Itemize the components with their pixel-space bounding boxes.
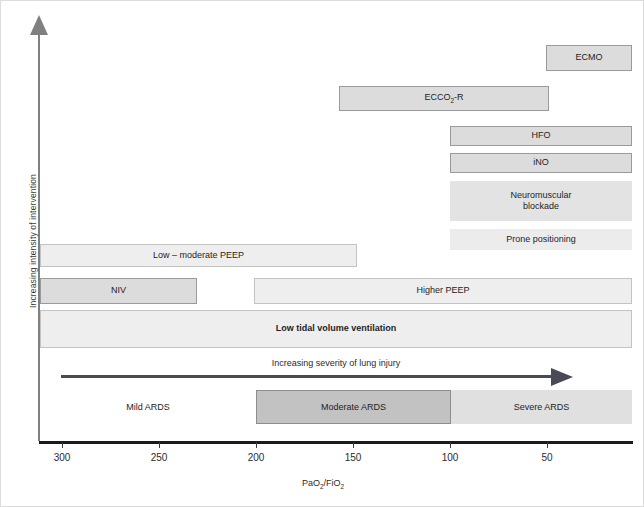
severity-arrowhead-icon: [551, 368, 573, 386]
x-axis-tick-label: 50: [527, 452, 567, 463]
intervention-bar: Low tidal volume ventilation: [40, 310, 632, 348]
x-axis-tick: [353, 442, 354, 448]
ards-severity-band-label: Mild ARDS: [126, 402, 170, 412]
x-axis-tick: [547, 442, 548, 448]
ards-severity-band: Moderate ARDS: [256, 390, 451, 424]
ards-severity-band: Mild ARDS: [40, 390, 256, 424]
x-axis-tick-label: 150: [333, 452, 373, 463]
axis-title-text: PaO: [302, 478, 320, 488]
axis-title-text: /FiO: [324, 478, 341, 488]
intervention-bar-label: Higher PEEP: [416, 285, 469, 296]
intervention-bar: Prone positioning: [450, 229, 632, 250]
intervention-bar: NIV: [40, 278, 197, 304]
x-axis-tick-label: 250: [139, 452, 179, 463]
intervention-bar-label: ECCO2-R: [424, 92, 463, 105]
axis-title-subscript: 2: [341, 483, 345, 490]
ards-severity-band-label: Severe ARDS: [514, 402, 570, 412]
intervention-bar-label: Prone positioning: [506, 234, 576, 245]
intervention-bar-label: Neuromuscularblockade: [510, 190, 571, 213]
x-axis-tick: [159, 442, 160, 448]
intervention-bar-label: HFO: [532, 130, 551, 141]
intervention-bar: HFO: [450, 126, 632, 146]
intervention-bar: Neuromuscularblockade: [450, 181, 632, 221]
y-axis-title: Increasing intensity of intervention: [28, 136, 38, 346]
x-axis-tick: [450, 442, 451, 448]
intervention-bar: ECCO2-R: [339, 86, 549, 111]
x-axis-title: PaO2/FiO2: [1, 478, 644, 490]
intervention-bar: iNO: [450, 153, 632, 173]
intervention-bar: ECMO: [546, 45, 632, 71]
x-axis-tick: [62, 442, 63, 448]
x-axis-line: [39, 441, 633, 444]
intervention-bar-label: ECMO: [576, 52, 603, 63]
ards-intervention-chart: Increasing intensity of intervention ECM…: [0, 0, 644, 507]
y-axis-line: [38, 31, 40, 441]
x-axis-tick-label: 300: [42, 452, 82, 463]
x-axis-tick-label: 100: [430, 452, 470, 463]
severity-axis-label: Increasing severity of lung injury: [39, 358, 633, 368]
intervention-bar: Low – moderate PEEP: [40, 244, 357, 267]
intervention-bar-label: Low tidal volume ventilation: [276, 323, 397, 334]
intervention-bar-label: Low – moderate PEEP: [153, 250, 244, 261]
ards-severity-band-label: Moderate ARDS: [321, 402, 386, 412]
intervention-bar-label: iNO: [533, 157, 549, 168]
ards-severity-band: Severe ARDS: [451, 390, 632, 424]
intervention-bar-label: NIV: [111, 285, 126, 296]
severity-arrow-shaft: [61, 375, 553, 378]
intervention-bar: Higher PEEP: [254, 278, 632, 304]
x-axis-tick: [256, 442, 257, 448]
x-axis-tick-label: 200: [236, 452, 276, 463]
